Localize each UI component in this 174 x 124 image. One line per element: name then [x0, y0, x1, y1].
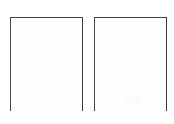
scan-smudge-artifact: [125, 97, 141, 104]
page-edge-haze-right: [95, 109, 166, 112]
page-frame-left[interactable]: [10, 17, 83, 111]
page-surface-right: [95, 18, 166, 109]
page-frame-right[interactable]: [94, 17, 167, 111]
page-edge-haze-left: [11, 109, 82, 112]
page-surface-left: [11, 18, 82, 109]
page-canvas: [0, 0, 174, 124]
